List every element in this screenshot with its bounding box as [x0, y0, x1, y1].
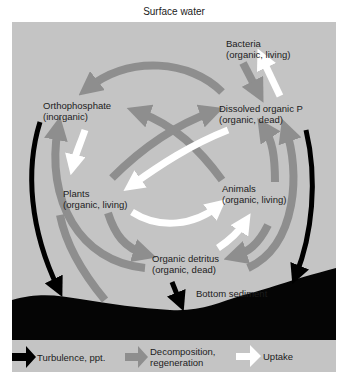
node-bottom-sediment: Bottom sediment — [196, 288, 267, 299]
node-plants-name: Plants — [63, 188, 127, 199]
arrow-detritus-to-animals — [218, 222, 245, 248]
node-plants: Plants (organic, living) — [63, 188, 127, 210]
legend-turbulence-label: Turbulence, ppt. — [37, 352, 105, 363]
node-dissolved-organic-p: Dissolved organic P (organic, dead) — [219, 103, 303, 125]
legend-decomposition-icon — [125, 346, 148, 368]
node-animals-desc: (organic, living) — [222, 194, 286, 205]
arrow-orthophosphate-to-plants — [73, 130, 85, 165]
legend-decomposition-line1: Decomposition, — [150, 346, 215, 357]
arrow-detritus-to-sediment — [172, 282, 180, 302]
legend-uptake-icon — [236, 345, 261, 367]
arrow-animals-to-dissolved — [264, 128, 275, 182]
node-dissolved-name: Dissolved organic P — [219, 103, 303, 114]
node-orthophosphate-desc: (inorganic) — [43, 111, 111, 122]
arrow-sediment-to-plants-region — [60, 215, 105, 300]
node-sediment-name: Bottom sediment — [196, 288, 267, 299]
node-detritus-name: Organic detritus — [152, 253, 219, 264]
arrow-dissolved-to-bacteria — [262, 58, 280, 96]
node-bacteria: Bacteria (organic, living) — [226, 38, 290, 60]
arrow-plants-to-animals — [132, 206, 218, 223]
legend-decomposition-label: Decomposition, regeneration — [150, 346, 215, 368]
node-organic-detritus: Organic detritus (organic, dead) — [152, 253, 219, 275]
node-orthophosphate: Orthophosphate (inorganic) — [43, 100, 111, 122]
node-bacteria-name: Bacteria — [226, 38, 290, 49]
bottom-sediment-shape — [12, 268, 336, 340]
node-dissolved-desc: (organic, dead) — [219, 114, 303, 125]
node-animals: Animals (organic, living) — [222, 183, 286, 205]
legend-uptake-label: Uptake — [263, 351, 293, 362]
node-detritus-desc: (organic, dead) — [152, 264, 219, 275]
legend-decomposition-line2: regeneration — [150, 357, 215, 368]
node-animals-name: Animals — [222, 183, 286, 194]
arrow-dissolved-to-orthophosphate — [88, 66, 222, 92]
arrow-bacteria-to-dissolved — [243, 63, 258, 92]
node-orthophosphate-name: Orthophosphate — [43, 100, 111, 111]
legend-turbulence-icon — [12, 346, 36, 368]
arrow-turbulence-right — [296, 130, 312, 275]
node-plants-desc: (organic, living) — [63, 199, 127, 210]
phosphorus-cycle-diagram — [0, 0, 348, 382]
node-bacteria-desc: (organic, living) — [226, 49, 290, 60]
